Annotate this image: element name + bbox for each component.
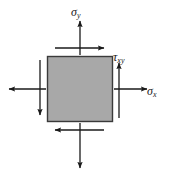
sigma-y-subscript: y	[77, 11, 81, 20]
tau-xy-label: τxy	[113, 48, 125, 65]
tau-xy-subscript: xy	[117, 56, 125, 65]
sigma-x-subscript: x	[153, 90, 157, 99]
stress-element-square	[48, 57, 113, 122]
sigma-x-label: σx	[147, 82, 157, 99]
plane-stress-element-figure: σy τxy σx	[0, 0, 170, 175]
stress-element-diagram	[0, 0, 170, 175]
sigma-y-label: σy	[71, 3, 81, 20]
